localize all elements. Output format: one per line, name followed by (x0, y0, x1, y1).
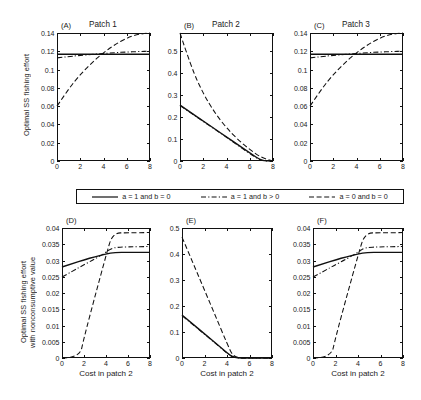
panel-e-ytick-label: 0.4 (170, 251, 180, 258)
panel-a-xtick-mark (150, 33, 151, 36)
legend-swatch-solid (92, 193, 118, 201)
panel-e-ytick-label: 0.1 (170, 329, 180, 336)
panel-b-tag: (B) (184, 21, 194, 30)
panel-e-ytick-label: 0 (176, 355, 180, 362)
panel-f-ytick-label: 0 (307, 355, 311, 362)
panel-a-ytick-label: 0.1 (45, 66, 55, 73)
panel-e-xtick-label: 2 (203, 360, 207, 367)
panel-f-ytick-label: 0.01 (297, 322, 311, 329)
panel-d: (D) 00.0050.010.0150.020.0250.030.0350.0… (62, 228, 150, 358)
panel-c-ytick-label: 0 (304, 158, 308, 165)
panel-a-ytick-label: 0.02 (41, 139, 55, 146)
panel-f-xtick-label: 8 (401, 360, 405, 367)
panel-c: (C) Patch 3 00.020.040.060.080.10.120.14… (310, 33, 403, 161)
panel-d-xlabel: Cost in patch 2 (79, 369, 132, 378)
panel-d-ytick-label: 0.02 (46, 290, 60, 297)
panel-f-ytick-label: 0.005 (293, 338, 311, 345)
ylabel-top: Optimal SS fishing effort (22, 30, 31, 160)
panel-a-ytick-mark (147, 161, 150, 162)
legend-swatch-dashed (309, 193, 335, 201)
panel-a-ytick-label: 0 (51, 158, 55, 165)
panel-c-ytick-label: 0.14 (294, 30, 308, 37)
panel-c-curves (310, 33, 403, 161)
panel-a-tag: (A) (61, 21, 71, 30)
panel-a-ytick-mark (57, 161, 60, 162)
panel-b-xtick-label: 4 (225, 163, 229, 170)
panel-b-curves (180, 33, 273, 161)
panel-f-xtick-label: 0 (311, 360, 315, 367)
panel-f-series-2 (313, 233, 403, 358)
panel-b-ytick-mark (180, 161, 183, 162)
panel-c-xtick-mark (403, 158, 404, 161)
panel-c-ytick-label: 0.02 (294, 139, 308, 146)
panel-b-xtick-label: 8 (271, 163, 275, 170)
panel-b-xtick-label: 6 (248, 163, 252, 170)
panel-f-ytick-label: 0.035 (293, 241, 311, 248)
panel-b-ytick-label: 0.3 (168, 91, 178, 98)
panel-d-xtick-label: 4 (104, 360, 108, 367)
panel-a-xtick-label: 4 (102, 163, 106, 170)
panel-c-tag: (C) (314, 21, 325, 30)
panel-e-series-0 (182, 315, 272, 358)
legend: a = 1 and b = 0 a = 1 and b > 0 a = 0 an… (76, 189, 404, 204)
panel-c-xtick-label: 6 (378, 163, 382, 170)
panel-a-ytick-label: 0.06 (41, 103, 55, 110)
legend-label-2: a = 0 and b = 0 (339, 192, 387, 201)
panel-f-series-0 (313, 252, 403, 267)
panel-f-xtick-mark (403, 355, 404, 358)
panel-c-ytick-label: 0.08 (294, 84, 308, 91)
panel-a-series-2 (57, 33, 150, 106)
panel-f-xtick-label: 4 (356, 360, 360, 367)
panel-e-series-2 (182, 237, 272, 358)
panel-c-ytick-label: 0.06 (294, 103, 308, 110)
panel-d-ytick-label: 0.01 (46, 322, 60, 329)
panel-a-ytick-label: 0.04 (41, 121, 55, 128)
panel-b-ytick-label: 0.5 (168, 47, 178, 54)
panel-f-ytick-label: 0.025 (293, 273, 311, 280)
panel-d-ytick-label: 0.04 (46, 225, 60, 232)
panel-e-series-1 (182, 316, 272, 358)
panel-f-xtick-mark (403, 228, 404, 231)
panel-d-ytick-label: 0.025 (42, 273, 60, 280)
panel-d-xtick-mark (150, 228, 151, 231)
panel-f-xtick-label: 6 (379, 360, 383, 367)
legend-item-2: a = 0 and b = 0 (309, 192, 387, 201)
panel-b-series-2 (180, 33, 273, 161)
panel-e: (E) 00.10.20.30.40.502468 Cost in patch … (182, 228, 272, 358)
panel-b-ytick-label: 0.1 (168, 135, 178, 142)
panel-a-curves (57, 33, 150, 161)
panel-b-ytick-label: 0 (174, 158, 178, 165)
panel-c-xtick-label: 0 (308, 163, 312, 170)
panel-a: (A) Patch 1 00.020.040.060.080.10.120.14… (57, 33, 150, 161)
legend-item-1: a = 1 and b > 0 (201, 192, 279, 201)
panel-f: (F) 00.0050.010.0150.020.0250.030.0350.0… (313, 228, 403, 358)
panel-c-series-2 (310, 33, 403, 106)
panel-d-ytick-label: 0.015 (42, 306, 60, 313)
legend-swatch-dashdot (201, 193, 227, 201)
panel-f-ytick-label: 0.015 (293, 306, 311, 313)
panel-b: (B) Patch 2 00.10.20.30.40.502468 (180, 33, 273, 161)
panel-b-xtick-mark (273, 158, 274, 161)
panel-c-ytick-label: 0.12 (294, 48, 308, 55)
panel-f-xtick-label: 2 (334, 360, 338, 367)
panel-e-xtick-label: 8 (270, 360, 274, 367)
panel-d-xtick-label: 6 (126, 360, 130, 367)
panel-e-ytick-label: 0.3 (170, 277, 180, 284)
panel-a-ytick-label: 0.08 (41, 84, 55, 91)
panel-f-series-1 (313, 247, 403, 278)
panel-a-xtick-label: 2 (78, 163, 82, 170)
panel-e-xtick-label: 4 (225, 360, 229, 367)
panel-e-xtick-label: 6 (248, 360, 252, 367)
panel-d-ytick-label: 0 (56, 355, 60, 362)
panel-b-xtick-mark (273, 33, 274, 36)
panel-c-xtick-label: 2 (331, 163, 335, 170)
panel-f-ytick-label: 0.03 (297, 257, 311, 264)
panel-e-xlabel: Cost in patch 2 (200, 369, 253, 378)
panel-f-ytick-label: 0.02 (297, 290, 311, 297)
panel-d-ytick-label: 0.005 (42, 338, 60, 345)
panel-e-tag: (E) (186, 216, 196, 225)
panel-c-xtick-label: 8 (401, 163, 405, 170)
panel-e-ytick-mark (182, 358, 185, 359)
legend-item-0: a = 1 and b = 0 (92, 192, 170, 201)
panel-a-xtick-label: 6 (125, 163, 129, 170)
